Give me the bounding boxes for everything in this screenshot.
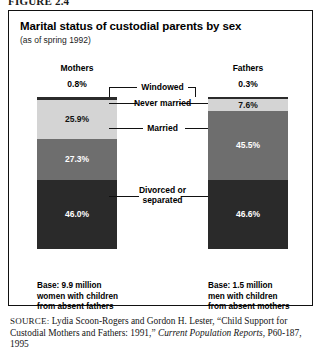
callout-married: Married	[117, 123, 208, 133]
mothers-segment-married: 27.3%	[37, 139, 117, 180]
mothers-divorced-value: 46.0%	[65, 210, 89, 219]
mothers-never-married-value: 25.9%	[65, 115, 89, 124]
mothers-widowed-value: 0.8%	[37, 79, 117, 89]
fathers-segment-never-married: 7.6%	[208, 99, 288, 111]
bar-mothers: 25.9% 27.3% 46.0%	[37, 97, 117, 249]
base-note-mothers-line3: from absent fathers	[37, 302, 118, 313]
callout-divorced-label-line2: separated	[117, 195, 208, 205]
source-publication-title: Current Population Reports,	[158, 328, 265, 338]
mothers-married-value: 27.3%	[65, 155, 89, 164]
callout-widowed-label: Windowed	[137, 82, 187, 92]
callout-divorced-label-line1: Divorced or	[117, 185, 208, 195]
callout-divorced: Divorced or separated	[117, 185, 208, 205]
base-note-fathers: Base: 1.5 million men with children from…	[208, 281, 289, 313]
callout-never-married-label: Never married	[134, 98, 191, 108]
base-note-mothers: Base: 9.9 million women with children fr…	[37, 281, 118, 313]
figure-subtitle: (as of spring 1992)	[20, 35, 91, 45]
fathers-segment-divorced: 46.6%	[208, 180, 288, 249]
fathers-never-married-value: 7.6%	[238, 101, 257, 110]
base-note-mothers-line1: Base: 9.9 million	[37, 281, 118, 292]
source-citation: SOURCE: Lydia Scoon-Rogers and Gordon H.…	[10, 316, 313, 351]
figure-title: Marital status of custodial parents by s…	[20, 20, 241, 32]
base-note-fathers-line3: from absent mothers	[208, 302, 289, 313]
base-note-fathers-line2: men with children	[208, 292, 289, 303]
callout-married-label: Married	[147, 123, 178, 133]
column-header-mothers: Mothers	[31, 63, 123, 73]
base-note-mothers-line2: women with children	[37, 292, 118, 303]
mothers-segment-divorced: 46.0%	[37, 180, 117, 249]
fathers-segment-married: 45.5%	[208, 111, 288, 180]
callout-never-married: Never married	[117, 98, 208, 108]
figure-box: Marital status of custodial parents by s…	[8, 10, 313, 306]
fathers-widowed-value: 0.3%	[208, 79, 288, 89]
mothers-segment-never-married: 25.9%	[37, 100, 117, 139]
callout-widowed: Windowed	[117, 82, 208, 92]
column-header-fathers: Fathers	[202, 63, 294, 73]
base-note-fathers-line1: Base: 1.5 million	[208, 281, 289, 292]
fathers-divorced-value: 46.6%	[236, 210, 260, 219]
figure-number: FIGURE 2.4	[8, 0, 69, 7]
source-prefix: SOURCE:	[10, 316, 49, 326]
bar-fathers: 7.6% 45.5% 46.6%	[208, 97, 288, 249]
fathers-married-value: 45.5%	[236, 141, 260, 150]
